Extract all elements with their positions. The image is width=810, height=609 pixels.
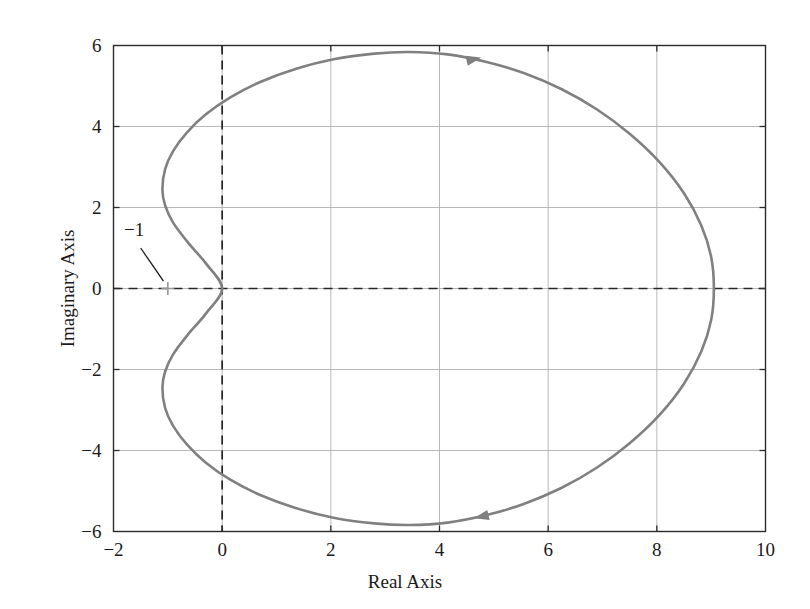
x-tick-label: −2 <box>103 539 123 560</box>
y-tick-label: −2 <box>81 359 101 380</box>
x-tick-label: 0 <box>217 539 227 560</box>
x-tick-label: 2 <box>326 539 336 560</box>
y-tick-label: 0 <box>92 278 102 299</box>
plot-canvas: −1 −20246810−6−4−20246 <box>0 0 810 609</box>
x-tick-label: 10 <box>756 539 775 560</box>
y-tick-label: −6 <box>81 521 101 542</box>
x-tick-label: 8 <box>652 539 662 560</box>
y-tick-label: 2 <box>92 197 102 218</box>
y-tick-label: 4 <box>92 116 102 137</box>
x-tick-label: 4 <box>435 539 445 560</box>
x-tick-label: 6 <box>543 539 553 560</box>
x-axis-label: Real Axis <box>0 571 810 593</box>
y-tick-label: −4 <box>81 440 102 461</box>
plot-background <box>0 0 810 609</box>
y-axis-label: Imaginary Axis <box>57 45 79 532</box>
nyquist-plot-figure: −1 −20246810−6−4−20246 Real Axis Imagina… <box>0 0 810 609</box>
y-tick-label: 6 <box>92 35 102 56</box>
critical-point-label: −1 <box>124 219 144 240</box>
